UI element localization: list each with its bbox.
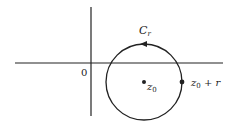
arrow-icon bbox=[140, 41, 147, 47]
contour-diagram: 0 Cr z0 z0 + r bbox=[0, 0, 236, 131]
origin-label: 0 bbox=[81, 67, 87, 78]
center-label: z0 bbox=[146, 81, 157, 94]
contour-label: Cr bbox=[139, 24, 151, 38]
edge-point-label: z0 + r bbox=[190, 77, 221, 90]
center-point bbox=[142, 80, 146, 84]
edge-point bbox=[180, 80, 185, 85]
